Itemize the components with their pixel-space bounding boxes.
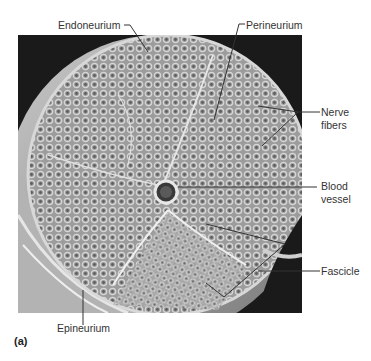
- nerve-micrograph: [18, 35, 302, 313]
- micrograph-illustration: [18, 35, 302, 313]
- label-blood-vessel-line2: vessel: [321, 193, 351, 205]
- label-epineurium: Epineurium: [57, 322, 110, 334]
- label-fascicle: Fascicle: [321, 265, 360, 277]
- label-perineurium: Perineurium: [246, 19, 303, 31]
- panel-letter: (a): [14, 335, 27, 347]
- label-endoneurium: Endoneurium: [58, 19, 120, 31]
- label-blood-vessel-line1: Blood: [321, 180, 348, 192]
- label-nerve-fibers-line1: Nerve: [321, 106, 349, 118]
- label-nerve-fibers-line2: fibers: [321, 119, 347, 131]
